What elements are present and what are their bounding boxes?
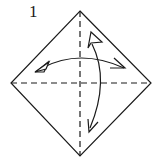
arrowhead-left-icon	[35, 62, 49, 72]
arrowhead-top-icon	[88, 32, 102, 48]
origami-diagram: 1	[0, 0, 161, 165]
diagram-canvas	[0, 0, 161, 165]
horizontal-arrow-arc	[42, 58, 124, 68]
vertical-arrow-arc	[90, 44, 101, 128]
